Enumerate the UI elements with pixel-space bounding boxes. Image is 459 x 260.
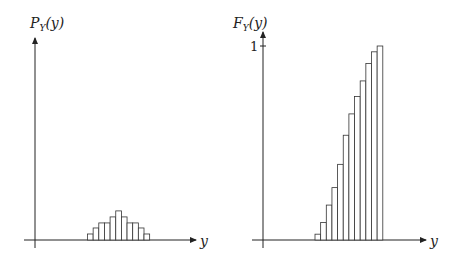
bar bbox=[99, 223, 105, 240]
bar bbox=[144, 234, 150, 240]
bar bbox=[326, 205, 332, 240]
bar bbox=[133, 223, 139, 240]
bar bbox=[121, 217, 127, 240]
bar bbox=[116, 211, 122, 240]
bar bbox=[372, 52, 378, 240]
cdf-x-label: y bbox=[429, 233, 439, 249]
bar bbox=[88, 234, 94, 240]
bar bbox=[349, 114, 355, 240]
bar bbox=[377, 46, 383, 240]
cdf-bars bbox=[315, 46, 383, 240]
bar bbox=[355, 96, 361, 240]
bar bbox=[332, 188, 338, 240]
bar bbox=[366, 63, 372, 240]
bar bbox=[360, 81, 366, 240]
bar bbox=[127, 223, 133, 240]
bar bbox=[321, 223, 327, 240]
pmf-x-label: y bbox=[199, 233, 209, 249]
bar bbox=[315, 234, 321, 240]
bar bbox=[343, 135, 349, 240]
pmf-chart: PY(y) y bbox=[24, 15, 209, 249]
cdf-y-label: FY(y) bbox=[232, 15, 268, 33]
cdf-tick-label: 1 bbox=[250, 39, 258, 54]
bar bbox=[138, 228, 144, 240]
pmf-y-label: PY(y) bbox=[29, 15, 64, 33]
pmf-bars bbox=[88, 211, 150, 240]
bar bbox=[338, 164, 344, 240]
charts-canvas: PY(y) y 1 FY(y) y bbox=[0, 0, 459, 260]
bar bbox=[93, 228, 99, 240]
bar bbox=[110, 217, 116, 240]
cdf-chart: 1 FY(y) y bbox=[232, 15, 439, 249]
bar bbox=[104, 223, 110, 240]
